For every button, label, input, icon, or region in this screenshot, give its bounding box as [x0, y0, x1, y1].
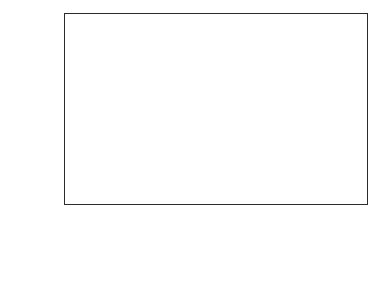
plot-area: [64, 13, 368, 205]
chart-figure: [0, 0, 391, 281]
